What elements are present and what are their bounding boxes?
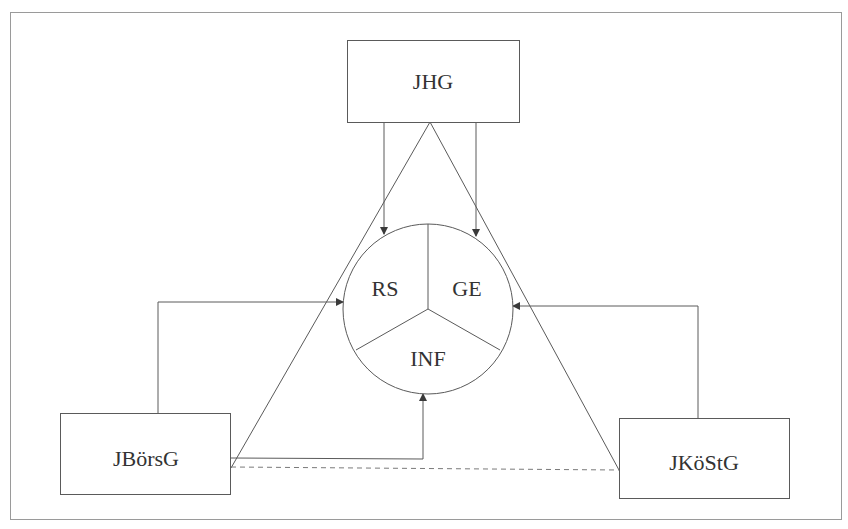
arrow-jkoestg-to-ge xyxy=(513,306,698,418)
node-jboersg-label: JBörsG xyxy=(113,446,179,471)
segment-rs-label: RS xyxy=(372,276,399,301)
node-jboersg: JBörsG xyxy=(61,414,231,495)
node-jhg: JHG xyxy=(348,41,520,123)
center-circle: RS GE INF xyxy=(343,224,513,394)
segment-inf-label: INF xyxy=(410,346,445,371)
arrow-jboersg-to-inf xyxy=(231,394,423,459)
dashed-line-jboersg-jkoestg xyxy=(231,467,619,470)
node-jkoestg-label: JKöStG xyxy=(669,450,739,475)
node-jkoestg: JKöStG xyxy=(620,419,790,499)
arrow-jboersg-to-rs xyxy=(158,302,343,413)
diagram-canvas: RS GE INF JHG JBörsG JKöStG xyxy=(0,0,848,529)
segment-ge-label: GE xyxy=(452,276,481,301)
node-jhg-label: JHG xyxy=(413,69,453,94)
